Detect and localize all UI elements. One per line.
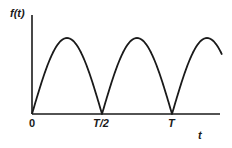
x-axis-label: t — [198, 130, 202, 141]
data-curve — [32, 38, 222, 114]
x-tick-0: 0 — [29, 118, 35, 129]
y-axis-label: f(t) — [10, 8, 25, 19]
x-tick-period: T — [168, 118, 175, 129]
x-tick-half-period: T/2 — [93, 118, 109, 129]
